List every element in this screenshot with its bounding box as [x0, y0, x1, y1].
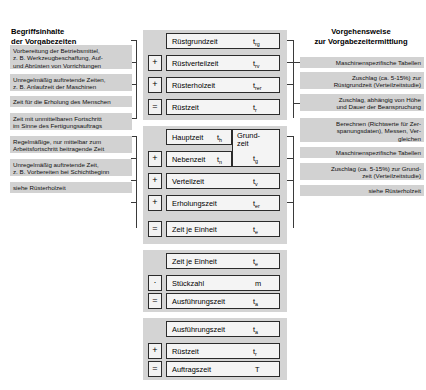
left-desc-6: siehe Rüsterholzeit — [10, 182, 132, 193]
symbol-ruestzeit-2: tr — [253, 347, 257, 357]
box-ruestverteilzeit: Rüstverteilzeit trv — [166, 55, 280, 71]
row-hauptzeit: Hauptzeit th — [166, 129, 232, 145]
box-hauptzeit: Hauptzeit th — [166, 129, 232, 145]
operator-nebenzeit: + — [148, 151, 162, 167]
right-column-heading: Vorgehensweise zur Vorgabezeitermittlung — [300, 27, 422, 46]
left-desc-3-line0: Zeit mit unmittelbaren Fortschritt — [13, 115, 129, 122]
box-auftragszeit: Auftragszeit T — [166, 361, 280, 377]
label-zeit-je-einheit: Zeit je Einheit — [172, 225, 217, 234]
left-desc-6-line0: siehe Rüsterholzeit — [13, 184, 129, 191]
symbol-erholungszeit: ter — [253, 199, 260, 209]
right-desc-1-line1: Rüstgrundzeit (Verteilzeitstudie) — [303, 81, 421, 88]
right-heading-line2: zur Vorgabezeitermittlung — [300, 37, 422, 47]
left-desc-2: Zeit für die Erholung des Menschen — [10, 96, 132, 107]
right-desc-2: Zuschlag, abhängig von Höhe und Dauer de… — [300, 94, 424, 111]
box-ruestzeit-2: Rüstzeit tr — [166, 343, 280, 359]
box-ruesterholzeit: Rüsterholzeit trer — [166, 77, 280, 93]
label-zeit-je-einheit-2: Zeit je Einheit — [172, 257, 217, 266]
label-ruestgrundzeit: Rüstgrundzeit — [172, 37, 218, 46]
left-desc-0: Vorbereitung der Betriebsmittel, z. B. W… — [10, 45, 132, 69]
box-zeit-je-einheit-2: Zeit je Einheit te — [166, 253, 280, 269]
left-desc-1: Unregelmäßig auftretende Zeiten, z. B. A… — [10, 74, 132, 91]
connector-right-ruest-h4 — [293, 62, 300, 63]
left-column-heading: Begriffsinhalte der Vorgabezeiten — [11, 27, 131, 46]
right-desc-4: Maschinenspezifische Tabellen — [300, 147, 424, 158]
right-desc-0: Maschinenspezifische Tabellen — [300, 57, 424, 68]
label-grundzeit-line2: zeit — [237, 140, 249, 149]
symbol-zeit-je-einheit-2: te — [253, 257, 258, 267]
connector-right-grund-vert — [293, 136, 294, 228]
box-nebenzeit: Nebenzeit tn — [166, 151, 232, 167]
right-desc-6: siehe Rüsterholzeit — [300, 185, 424, 196]
row-nebenzeit: + Nebenzeit tn — [148, 151, 232, 167]
box-ruestgrundzeit: Rüstgrundzeit trg — [166, 33, 280, 49]
symbol-ausfuehrungszeit: ta — [253, 297, 258, 307]
symbol-grundzeit: tg — [253, 155, 258, 164]
connector-right-grund-h3 — [287, 180, 293, 181]
operator-ausfuehrungszeit: = — [148, 293, 162, 309]
label-ausfuehrungszeit: Ausführungszeit — [172, 297, 225, 306]
label-ruestzeit: Rüstzeit — [172, 103, 199, 112]
right-desc-3-line1: spanungsdaten), Messen, Ver- — [303, 127, 421, 134]
row-ruestzeit: = Rüstzeit tr — [148, 99, 280, 115]
left-desc-5-line0: Unregelmäßig auftretende Zeit, — [13, 161, 129, 168]
box-ausfuehrungszeit: Ausführungszeit ta — [166, 293, 280, 309]
symbol-verteilzeit: tv — [253, 177, 258, 187]
box-verteilzeit: Verteilzeit tv — [166, 173, 280, 189]
left-heading-line1: Begriffsinhalte — [11, 27, 131, 37]
symbol-zeit-je-einheit: te — [253, 225, 258, 235]
left-desc-0-line1: z. B. Werkzeugbeschaffung, Auf- — [13, 54, 129, 61]
right-desc-3-line2: gleichen — [303, 135, 421, 142]
operator-stueckzahl: · — [148, 275, 162, 291]
connector-left-grund-vert — [136, 136, 137, 228]
connector-right-ruest-h3 — [287, 84, 293, 85]
box-erholungszeit: Erholungszeit ter — [166, 195, 280, 211]
left-desc-1-line0: Unregelmäßig auftretende Zeiten, — [13, 76, 129, 83]
right-desc-3: Berechnen (Richtwerte für Zer- spanungsd… — [300, 118, 424, 142]
symbol-auftragszeit: T — [255, 365, 260, 374]
symbol-ausfuehrungszeit-2: ta — [253, 325, 258, 335]
row-zeit-je-einheit: = Zeit je Einheit te — [148, 221, 280, 237]
row-ausfuehrungszeit-2: Ausführungszeit ta — [166, 321, 280, 337]
row-erholungszeit: + Erholungszeit ter — [148, 195, 280, 211]
operator-ruestzeit-2: + — [148, 343, 162, 359]
operator-ruestverteilzeit: + — [148, 55, 162, 71]
operator-ruesterholzeit: + — [148, 77, 162, 93]
symbol-ruestgrundzeit: trg — [253, 37, 260, 47]
label-ruestverteilzeit: Rüstverteilzeit — [172, 59, 218, 68]
left-desc-4-line1: Arbeitsfortschritt beitragende Zeit — [13, 145, 129, 152]
operator-zeit-je-einheit: = — [148, 221, 162, 237]
label-stueckzahl: Stückzahl — [172, 279, 204, 288]
connector-right-ruest-vert — [293, 40, 294, 118]
box-ruestzeit: Rüstzeit tr — [166, 99, 280, 115]
right-desc-5-line1: zeit (Verteilzeitstudie) — [303, 172, 421, 179]
label-nebenzeit: Nebenzeit — [172, 155, 205, 164]
row-ruesterholzeit: + Rüsterholzeit trer — [148, 77, 280, 93]
connector-right-ruest-h5 — [293, 103, 300, 104]
right-desc-5-line0: Zuschlag (ca. 5-15%) zur Grund- — [303, 165, 421, 172]
label-verteilzeit: Verteilzeit — [172, 177, 204, 186]
operator-ruestzeit: = — [148, 99, 162, 115]
row-verteilzeit: + Verteilzeit tv — [148, 173, 280, 189]
row-ruestgrundzeit: Rüstgrundzeit trg — [166, 33, 280, 49]
right-desc-0-line0: Maschinenspezifische Tabellen — [303, 59, 421, 66]
right-desc-4-line0: Maschinenspezifische Tabellen — [303, 149, 421, 156]
box-stueckzahl: Stückzahl m — [166, 275, 280, 291]
connector-right-grund-h2 — [287, 158, 293, 159]
right-desc-5: Zuschlag (ca. 5-15%) zur Grund- zeit (Ve… — [300, 163, 424, 180]
right-desc-6-line0: siehe Rüsterholzeit — [303, 187, 421, 194]
left-desc-3: Zeit mit unmittelbaren Fortschritt im Si… — [10, 113, 132, 130]
left-desc-5: Unregelmäßig auftretende Zeit, z. B. Vor… — [10, 159, 132, 176]
label-ruesterholzeit: Rüsterholzeit — [172, 81, 215, 90]
symbol-hauptzeit: th — [217, 133, 222, 143]
operator-verteilzeit: + — [148, 173, 162, 189]
right-heading-line1: Vorgehensweise — [300, 27, 422, 37]
left-desc-2-line0: Zeit für die Erholung des Menschen — [13, 98, 129, 105]
operator-erholungszeit: + — [148, 195, 162, 211]
label-auftragszeit: Auftragszeit — [172, 365, 211, 374]
left-desc-0-line2: und Abrüsten von Vorrichtungen — [13, 62, 129, 69]
row-zeit-je-einheit-2: Zeit je Einheit te — [166, 253, 280, 269]
label-ruestzeit-2: Rüstzeit — [172, 347, 199, 356]
symbol-ruesterholzeit: trer — [253, 81, 262, 91]
row-stueckzahl: · Stückzahl m — [148, 275, 280, 291]
